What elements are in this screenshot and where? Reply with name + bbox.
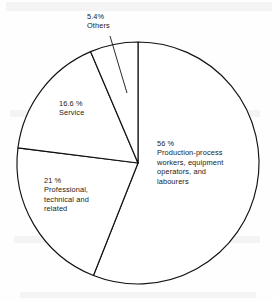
slice-label-service: 16.6 % Service	[59, 99, 84, 118]
slice-label-professional: 21 % Professional, technical and related	[44, 176, 89, 214]
slice-label-production: 56 % Production-process workers, equipme…	[157, 139, 223, 186]
pie-chart-figure: 5.4% Others 16.6 % Service 56 % Producti…	[0, 0, 278, 301]
pie-chart-graphic	[0, 0, 278, 301]
slice-label-others: 5.4% Others	[87, 12, 110, 31]
